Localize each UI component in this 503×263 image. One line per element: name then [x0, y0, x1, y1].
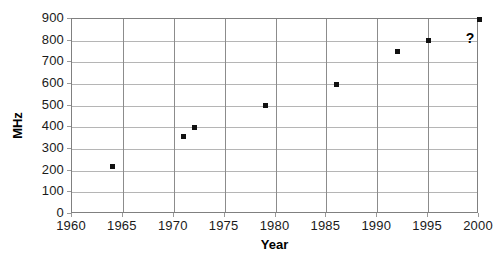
x-axis-tick — [224, 213, 225, 217]
y-axis-tick — [67, 191, 71, 192]
gridline-horizontal — [72, 106, 477, 107]
y-axis-tick — [67, 18, 71, 19]
y-axis-tick-label: 700 — [4, 54, 64, 67]
y-axis-tick — [67, 61, 71, 62]
gridline-horizontal — [72, 127, 477, 128]
y-axis-tick — [67, 105, 71, 106]
x-axis-tick — [275, 213, 276, 217]
gridline-horizontal — [72, 171, 477, 172]
gridline-vertical — [225, 19, 226, 212]
y-axis-tick-label: 800 — [4, 33, 64, 46]
data-point — [110, 164, 115, 169]
data-point — [477, 17, 482, 22]
gridline-vertical — [326, 19, 327, 212]
gridline-horizontal — [72, 84, 477, 85]
gridline-vertical — [428, 19, 429, 212]
x-axis-title: Year — [71, 238, 478, 251]
chart-annotation: ? — [466, 31, 475, 45]
x-axis-tick — [478, 213, 479, 217]
data-point — [263, 103, 268, 108]
y-axis-tick-label: 200 — [4, 163, 64, 176]
y-axis-tick-label: 100 — [4, 184, 64, 197]
y-axis-tick — [67, 83, 71, 84]
gridline-horizontal — [72, 192, 477, 193]
scatter-chart: 0100200300400500600700800900 MHz ? Year … — [0, 0, 503, 263]
x-axis-tick-label: 2000 — [448, 219, 503, 232]
x-axis-tick — [376, 213, 377, 217]
y-axis-tick-label: 0 — [4, 206, 64, 219]
x-axis-tick — [71, 213, 72, 217]
y-axis-tick-label: 900 — [4, 11, 64, 24]
gridline-horizontal — [72, 62, 477, 63]
gridline-vertical — [174, 19, 175, 212]
y-axis-tick — [67, 170, 71, 171]
y-axis-tick-label: 600 — [4, 76, 64, 89]
x-axis-tick — [325, 213, 326, 217]
y-axis-tick — [67, 126, 71, 127]
gridline-vertical — [276, 19, 277, 212]
gridline-horizontal — [72, 41, 477, 42]
y-axis-title-text: MHz — [11, 112, 24, 139]
y-axis-tick — [67, 148, 71, 149]
x-axis-tick — [427, 213, 428, 217]
gridline-vertical — [377, 19, 378, 212]
data-point — [334, 82, 339, 87]
gridline-horizontal — [72, 149, 477, 150]
x-axis-tick — [173, 213, 174, 217]
data-point — [426, 38, 431, 43]
gridline-vertical — [123, 19, 124, 212]
data-point — [192, 125, 197, 130]
y-axis-tick — [67, 40, 71, 41]
y-axis-title: MHz — [4, 95, 30, 155]
x-axis-tick — [122, 213, 123, 217]
data-point — [395, 49, 400, 54]
data-point — [181, 134, 186, 139]
plot-area: ? — [71, 18, 478, 213]
